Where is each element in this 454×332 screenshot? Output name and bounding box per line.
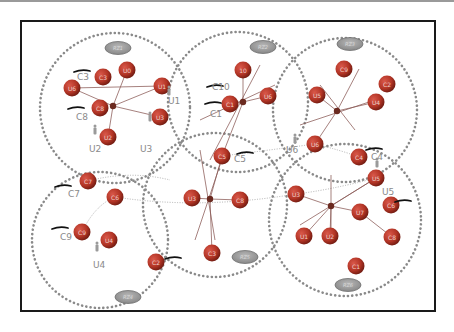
zone-oval-label: RZ4 — [123, 294, 133, 300]
edge-line — [72, 86, 162, 88]
zone-oval-rz6: RZ6 — [335, 279, 361, 292]
pen-icon — [205, 102, 221, 104]
pen-icon — [165, 257, 181, 259]
node-label: C4 — [355, 154, 363, 161]
node-label: C6 — [111, 194, 119, 201]
zone-oval-rz3: RZ3 — [337, 38, 363, 51]
zone-oval-rz1: RZ1 — [105, 42, 131, 55]
node-label: C5 — [218, 153, 226, 160]
node-u6: U6 — [64, 80, 81, 97]
node-u3n: U3 — [152, 109, 169, 126]
zone-ovals: RZ1RZ2RZ3RZ4RZ5RZ6 — [105, 38, 363, 304]
hub-node — [110, 103, 116, 109]
node-label: U0 — [123, 67, 131, 74]
dotted-link — [88, 175, 170, 181]
node-u2n: U2 — [100, 129, 117, 146]
hub-node — [240, 99, 246, 105]
node-u3c: U3 — [184, 190, 201, 207]
node-c3b: C3 — [204, 245, 221, 262]
node-c2: C2 — [379, 76, 396, 93]
node-c6: C6 — [383, 197, 400, 214]
zone-oval-label: RZ1 — [113, 45, 123, 51]
node-u2: U2 — [322, 228, 339, 245]
pen-icon — [68, 107, 84, 109]
pen-icon — [395, 200, 411, 202]
node-c9b: C9 — [336, 61, 353, 78]
node-u0: U0 — [119, 62, 136, 79]
zone-oval-label: RZ2 — [258, 44, 268, 50]
node-u5: U5 — [368, 170, 385, 187]
person-icon — [96, 242, 99, 252]
node-c10: 10 — [235, 62, 252, 79]
edges — [72, 65, 392, 253]
node-u4a: U4 — [368, 94, 385, 111]
zone-circle — [32, 172, 168, 308]
node-caption: C10 — [212, 82, 230, 92]
node-caption: C9 — [60, 232, 72, 242]
node-label: C8 — [388, 234, 396, 241]
node-c8c: C8 — [384, 229, 401, 246]
hub-node — [207, 196, 213, 202]
node-c1b: C1 — [348, 258, 365, 275]
node-label: 10 — [239, 67, 247, 74]
hub-node — [328, 203, 334, 209]
person-icon — [168, 86, 171, 96]
node-label: U6 — [264, 93, 272, 100]
node-c8b: C8 — [232, 192, 249, 209]
node-label: U2 — [104, 134, 112, 141]
node-caption: C4 — [371, 152, 383, 162]
node-c9: C9 — [74, 224, 91, 241]
person-icon — [294, 134, 297, 144]
edge-line — [200, 150, 215, 240]
node-label: C6 — [387, 202, 395, 209]
node-caption: C7 — [68, 189, 80, 199]
hub-node — [334, 108, 340, 114]
node-caption: U3 — [140, 144, 152, 154]
node-caption: C3 — [77, 72, 89, 82]
node-c4: C4 — [351, 149, 368, 166]
node-c7: C7 — [80, 173, 97, 190]
nodes: C3U0U6U1C8U3U210C1U6C5C9C2U5U4U6C4C7C6C9… — [64, 61, 401, 275]
zone-oval-label: RZ3 — [345, 41, 355, 47]
node-label: C2 — [152, 259, 160, 266]
node-label: C8 — [96, 105, 104, 112]
person-icon — [94, 125, 97, 135]
node-label: U5 — [372, 175, 380, 182]
network-diagram: C3U0U6U1C8U3U210C1U6C5C9C2U5U4U6C4C7C6C9… — [0, 0, 454, 332]
node-u7: U7 — [352, 204, 369, 221]
node-u6b: U6 — [260, 88, 277, 105]
zone-circle — [269, 144, 421, 296]
node-label: C9 — [340, 66, 348, 73]
node-c2b: C2 — [148, 254, 165, 271]
node-caption: U2 — [89, 144, 101, 154]
node-label: C2 — [383, 81, 391, 88]
node-caption: U4 — [93, 260, 106, 270]
node-label: C3 — [99, 74, 107, 81]
pen-icon — [52, 227, 68, 229]
node-label: C7 — [84, 178, 92, 185]
node-label: U1 — [158, 83, 166, 90]
node-label: U4 — [372, 99, 380, 106]
node-u3d: U3 — [288, 186, 305, 203]
node-label: C9 — [78, 229, 86, 236]
node-c3: C3 — [95, 69, 112, 86]
node-label: C1 — [226, 101, 234, 108]
node-label: C3 — [208, 250, 216, 257]
node-c8: C8 — [92, 100, 109, 117]
node-u1: U1 — [296, 228, 313, 245]
node-label: U2 — [326, 233, 334, 240]
node-u6c: U6 — [307, 136, 324, 153]
node-caption: C8 — [76, 112, 88, 122]
node-label: C8 — [236, 197, 244, 204]
node-label: U5 — [313, 92, 321, 99]
node-label: U3 — [292, 191, 300, 198]
node-label: U1 — [300, 233, 308, 240]
node-caption: U1 — [168, 96, 180, 106]
node-c1: C1 — [222, 96, 239, 113]
zone-oval-rz5: RZ5 — [232, 251, 258, 264]
node-u5a: U5 — [309, 87, 326, 104]
edge-line — [320, 85, 355, 130]
zone-oval-rz2: RZ2 — [250, 41, 276, 54]
node-caption: C1 — [210, 109, 222, 119]
node-u4: U4 — [101, 232, 118, 249]
